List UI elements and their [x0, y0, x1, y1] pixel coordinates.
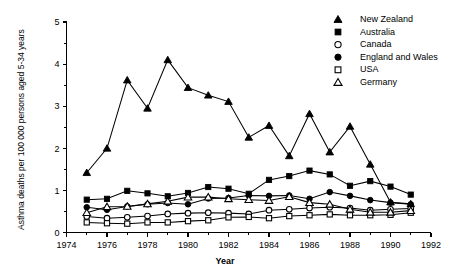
- chart-legend: New ZealandAustraliaCanadaEngland and Wa…: [334, 14, 438, 87]
- data-point-marker: [327, 212, 332, 217]
- data-point-marker: [125, 221, 130, 226]
- data-point-marker: [368, 179, 373, 184]
- data-point-marker: [265, 122, 273, 128]
- x-tick-label: 1976: [97, 240, 117, 250]
- data-point-marker: [165, 220, 170, 225]
- x-tick-label: 1982: [218, 240, 238, 250]
- y-axis-ticks: 012345: [54, 17, 66, 238]
- data-point-marker: [266, 207, 272, 213]
- data-point-marker: [84, 197, 89, 202]
- data-point-marker: [287, 173, 292, 178]
- x-tick-label: 1992: [421, 240, 441, 250]
- data-point-marker: [408, 192, 413, 197]
- data-point-marker: [165, 211, 171, 217]
- y-tick-label: 3: [54, 101, 59, 111]
- data-point-marker: [145, 220, 150, 225]
- data-point-marker: [335, 41, 341, 47]
- y-tick-label: 5: [54, 17, 59, 27]
- data-point-marker: [367, 197, 373, 203]
- legend-item-new-zealand[interactable]: New Zealand: [334, 14, 413, 24]
- chart-figure: Asthma deaths per 100 000 persons aged 5…: [0, 0, 453, 278]
- data-point-marker: [144, 105, 152, 111]
- data-point-marker: [246, 214, 251, 219]
- data-point-marker: [185, 201, 191, 207]
- data-point-marker: [125, 188, 130, 193]
- legend-item-australia[interactable]: Australia: [335, 27, 395, 37]
- data-point-marker: [184, 84, 192, 90]
- x-axis-ticks: 1974197619781980198219841986198819901992: [56, 233, 441, 250]
- data-point-marker: [347, 193, 353, 199]
- x-tick-label: 1988: [340, 240, 360, 250]
- y-tick-label: 4: [54, 59, 59, 69]
- data-point-marker: [124, 215, 130, 221]
- data-point-marker: [185, 219, 190, 224]
- data-point-marker: [226, 186, 231, 191]
- data-point-marker: [145, 191, 150, 196]
- data-point-marker: [335, 29, 341, 35]
- data-point-marker: [103, 145, 111, 151]
- data-point-marker: [104, 221, 109, 226]
- data-point-marker: [84, 220, 89, 225]
- data-point-marker: [266, 216, 271, 221]
- data-point-marker: [327, 172, 332, 177]
- data-point-marker: [347, 183, 352, 188]
- data-point-marker: [388, 184, 393, 189]
- data-point-marker: [266, 177, 271, 182]
- data-point-marker: [123, 76, 131, 82]
- data-point-marker: [307, 205, 313, 211]
- x-tick-label: 1978: [137, 240, 157, 250]
- data-point-marker: [327, 189, 333, 195]
- data-point-marker: [306, 110, 314, 116]
- data-point-marker: [286, 207, 292, 213]
- y-tick-label: 0: [54, 228, 59, 238]
- data-point-marker: [205, 210, 211, 216]
- legend-item-label: Canada: [360, 39, 392, 49]
- data-point-marker: [335, 54, 341, 60]
- data-point-marker: [335, 67, 341, 73]
- data-point-marker: [347, 213, 352, 218]
- x-tick-label: 1974: [56, 240, 76, 250]
- data-point-marker: [287, 213, 292, 218]
- x-tick-label: 1984: [259, 240, 279, 250]
- data-point-marker: [388, 200, 394, 206]
- legend-item-england-and-wales[interactable]: England and Wales: [335, 52, 438, 62]
- y-tick-label: 1: [54, 186, 59, 196]
- x-tick-label: 1986: [299, 240, 319, 250]
- data-point-marker: [346, 123, 354, 129]
- data-point-marker: [334, 79, 342, 86]
- x-axis-title-label: Year: [215, 256, 235, 266]
- legend-item-usa[interactable]: USA: [335, 64, 378, 74]
- legend-item-label: Australia: [360, 27, 395, 37]
- y-tick-label: 2: [54, 144, 59, 154]
- data-point-marker: [366, 161, 374, 167]
- data-point-marker: [334, 16, 342, 23]
- data-point-marker: [285, 152, 293, 158]
- data-point-marker: [204, 92, 212, 98]
- y-axis-title-label: Asthma deaths per 100 000 persons aged 5…: [16, 29, 26, 230]
- legend-item-label: Germany: [360, 77, 398, 87]
- data-point-marker: [307, 168, 312, 173]
- data-point-marker: [307, 213, 312, 218]
- legend-item-label: New Zealand: [360, 14, 413, 24]
- data-point-marker: [164, 56, 172, 62]
- legend-item-germany[interactable]: Germany: [334, 77, 398, 87]
- legend-item-label: USA: [360, 64, 379, 74]
- data-point-marker: [206, 184, 211, 189]
- x-tick-label: 1980: [178, 240, 198, 250]
- data-point-marker: [104, 196, 109, 201]
- legend-item-canada[interactable]: Canada: [335, 39, 392, 49]
- y-axis-title: Asthma deaths per 100 000 persons aged 5…: [16, 29, 26, 230]
- data-point-marker: [206, 218, 211, 223]
- data-point-marker: [185, 210, 191, 216]
- legend-item-label: England and Wales: [360, 52, 438, 62]
- x-tick-label: 1990: [380, 240, 400, 250]
- data-point-marker: [226, 215, 231, 220]
- asthma-deaths-line-chart: Asthma deaths per 100 000 persons aged 5…: [0, 0, 453, 278]
- data-point-marker: [245, 134, 253, 140]
- data-point-marker: [145, 213, 151, 219]
